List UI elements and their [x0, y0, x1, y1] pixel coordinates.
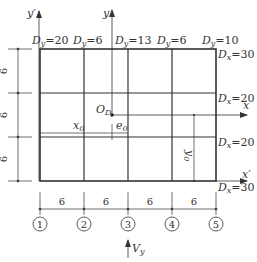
y-prime-label: y′ — [26, 7, 36, 20]
axis-markers: 1 2 3 4 5 — [33, 217, 223, 231]
left-dim-labels: 6 6 6 — [0, 68, 9, 162]
y0-dimension: y0 — [182, 114, 196, 182]
svg-text:3: 3 — [125, 219, 131, 230]
dx-label-1: Dx=30 — [217, 48, 255, 62]
y-axis: y — [102, 7, 112, 115]
x0-label: x0 — [73, 119, 84, 133]
e0-dimension: e0 — [112, 119, 128, 133]
axis-marker-2: 2 — [77, 217, 91, 231]
vy-force: Vy — [128, 240, 145, 258]
axis-marker-5: 5 — [209, 217, 223, 231]
dx-label-4: Dx=30 — [217, 181, 255, 195]
svg-text:5: 5 — [213, 219, 219, 230]
dy-label-1: Dy=20 — [31, 34, 69, 48]
dy-label-4: Dy=6 — [156, 34, 187, 48]
axis-marker-1: 1 — [33, 217, 47, 231]
dy-label-3: Dy=13 — [114, 34, 152, 48]
e0-label: e0 — [116, 119, 128, 133]
bottom-dim-3: 6 — [147, 196, 153, 207]
axis-marker-3: 3 — [121, 217, 135, 231]
left-dim-2: 6 — [0, 112, 9, 118]
bottom-dim-1: 6 — [59, 196, 65, 207]
origin-point: OD — [96, 103, 114, 117]
axis-marker-4: 4 — [165, 217, 179, 231]
vy-label: Vy — [132, 242, 145, 256]
left-dim-3: 6 — [0, 156, 9, 162]
x-prime-axis: x′ — [216, 168, 251, 181]
dy-label-2: Dy=6 — [72, 34, 103, 48]
svg-text:1: 1 — [37, 219, 43, 230]
left-dimensions — [8, 48, 32, 182]
origin-label: OD — [96, 103, 112, 117]
svg-text:4: 4 — [169, 219, 175, 230]
dx-label-2: Dx=20 — [217, 92, 255, 106]
bottom-dim-4: 6 — [191, 196, 197, 207]
dy-label-5: Dy=10 — [201, 34, 239, 48]
top-dy-labels: Dy=20 Dy=6 Dy=13 Dy=6 Dy=10 — [31, 34, 239, 48]
left-dim-1: 6 — [0, 68, 9, 74]
bottom-dim-2: 6 — [103, 196, 109, 207]
x-prime-label: x′ — [242, 168, 251, 181]
stiffness-center-diagram: y′ y x x′ OD x0 e0 y0 Dy=20 Dy=6 — [0, 0, 257, 262]
y-label: y — [102, 7, 110, 20]
dx-label-3: Dx=20 — [217, 136, 255, 150]
svg-text:2: 2 — [81, 219, 87, 230]
